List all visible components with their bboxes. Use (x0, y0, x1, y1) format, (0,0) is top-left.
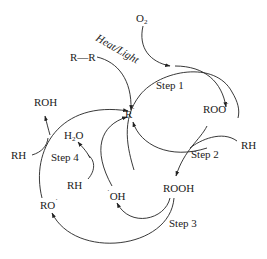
step1-label: Step 1 (156, 79, 184, 91)
rh-left-label: RH (11, 149, 26, 161)
rooh-label: ROOH (163, 182, 194, 194)
step2-rh-curve (190, 136, 237, 148)
step4-rh-center-curve (88, 155, 94, 179)
step2-label: Step 2 (191, 148, 219, 160)
o2-label: O2 (136, 12, 148, 26)
step3-label: Step 3 (169, 217, 197, 229)
r-radical-label: R˙ (125, 107, 135, 120)
ro-radical-label: RO˙ (40, 198, 58, 211)
step4-label: Step 4 (51, 151, 79, 163)
rr-label: R—R (70, 51, 96, 63)
rh-right-label: RH (241, 139, 256, 151)
rh-center-label: RH (67, 179, 82, 191)
initiation-arrow (97, 57, 131, 110)
step4-arrow-to-h2o (78, 142, 90, 158)
step4-arrow-to-roh (45, 116, 50, 135)
roo-radical-label: ROO˙ (203, 102, 229, 115)
roh-label: ROH (34, 96, 57, 108)
h2o-label: H2O (64, 129, 83, 143)
autoxidation-diagram: O2 R—R Heat/Light R˙ Step 1 ROO˙ RH Step… (0, 0, 267, 259)
step3-arrow-to-ro (52, 198, 174, 243)
o2-arrow (142, 26, 170, 66)
step4-inner-arc (101, 117, 127, 186)
oh-radical-label: ˙OH (107, 189, 126, 202)
heat-light-label: Heat/Light (93, 31, 142, 66)
